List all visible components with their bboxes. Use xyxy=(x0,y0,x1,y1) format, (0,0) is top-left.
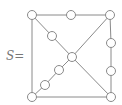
node-bl xyxy=(28,93,37,102)
node-d2 xyxy=(55,66,64,75)
node-d1 xyxy=(48,32,57,41)
graph-name: S xyxy=(6,49,14,63)
node-r2 xyxy=(107,67,116,76)
node-r1 xyxy=(107,39,116,48)
edge-tr-c xyxy=(72,15,110,57)
equals-sign: = xyxy=(14,49,24,63)
graph-label: S= xyxy=(6,49,24,63)
node-c xyxy=(68,53,77,62)
edge-c-br xyxy=(72,57,111,97)
node-br xyxy=(107,93,116,102)
node-tl xyxy=(28,11,37,20)
node-d3 xyxy=(41,81,50,90)
node-tm xyxy=(67,11,76,20)
node-tr xyxy=(106,11,115,20)
